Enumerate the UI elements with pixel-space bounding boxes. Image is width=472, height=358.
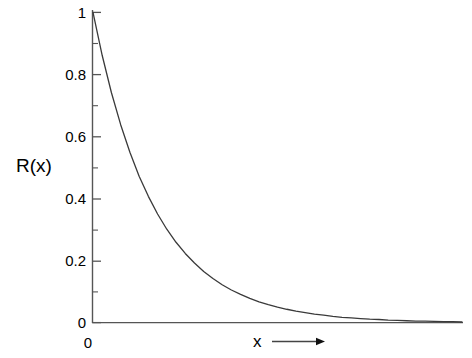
plot-background: [0, 0, 472, 358]
y-tick-label-0.4: 0.4: [65, 190, 86, 207]
y-tick-label-0.6: 0.6: [65, 128, 86, 145]
exponential-decay-plot: 1 0.8 0.6 0.4 0.2 0 R(x) 0 x: [0, 0, 472, 358]
y-tick-label-0.8: 0.8: [65, 66, 86, 83]
x-origin-label: 0: [84, 334, 92, 351]
y-axis-title: R(x): [16, 155, 52, 176]
x-axis-title: x: [253, 332, 262, 351]
y-tick-label-0.2: 0.2: [65, 252, 86, 269]
y-tick-label-1: 1: [78, 4, 86, 21]
chart-figure: 1 0.8 0.6 0.4 0.2 0 R(x) 0 x: [0, 0, 472, 358]
y-tick-label-0: 0: [78, 314, 86, 331]
